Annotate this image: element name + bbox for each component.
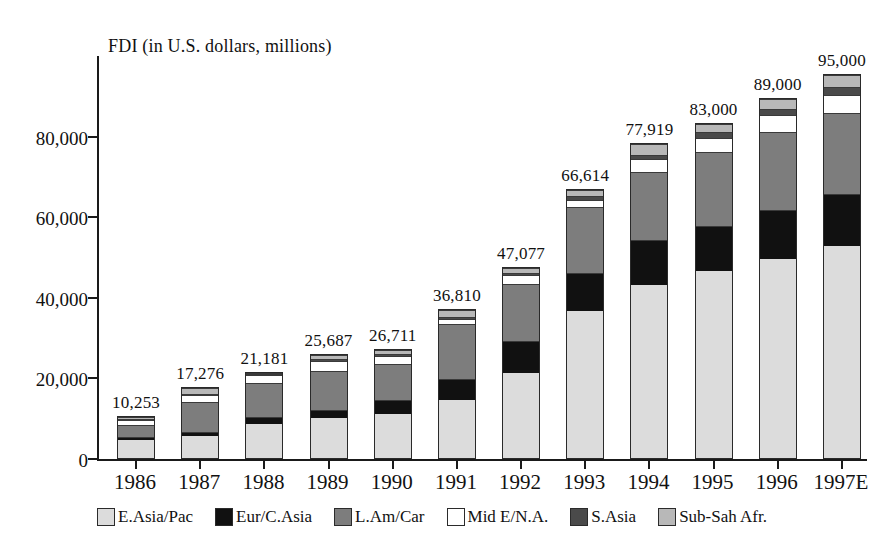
x-axis-tick-label: 1993 <box>563 470 605 495</box>
x-axis-tick <box>199 461 201 469</box>
chart-title: FDI (in U.S. dollars, millions) <box>108 36 332 57</box>
x-axis-tick <box>456 461 458 469</box>
legend-item-label: Mid E/N.A. <box>468 507 549 527</box>
bar-value-label: 25,687 <box>305 331 353 351</box>
bar-segment <box>503 275 539 283</box>
bar-series-container: 10,25317,27621,18125,68726,71136,81047,0… <box>97 56 867 459</box>
bar-stack[interactable]: 17,276 <box>181 387 219 459</box>
bar-segment <box>824 194 860 246</box>
y-axis-tick-label: 80,000 <box>36 128 88 150</box>
bar-segment <box>246 424 282 458</box>
y-axis-tick <box>88 377 97 379</box>
bar-segment <box>824 87 860 95</box>
bar-stack[interactable]: 95,000 <box>823 74 861 459</box>
x-axis-tick-label: 1987 <box>178 470 220 495</box>
bar-segment <box>824 95 860 113</box>
bar-segment <box>696 271 732 458</box>
bar-segment <box>631 159 667 171</box>
x-axis-tick-label: 1988 <box>242 470 284 495</box>
bar-segment <box>760 259 796 458</box>
bar-segment <box>760 109 796 116</box>
bar-stack[interactable]: 21,181 <box>245 372 283 459</box>
bar-segment <box>439 324 475 380</box>
bar-stack[interactable]: 66,614 <box>566 189 604 459</box>
bar-segment <box>760 115 796 131</box>
legend-item[interactable]: Eur/C.Asia <box>215 507 312 527</box>
bar-segment <box>824 75 860 87</box>
bar-stack[interactable]: 10,253 <box>117 416 155 459</box>
x-axis-tick-label: 1991 <box>435 470 477 495</box>
bar-value-label: 26,711 <box>369 326 416 346</box>
chart-legend: E.Asia/PacEur/C.AsiaL.Am/CarMid E/N.A.S.… <box>97 503 881 531</box>
bar-segment <box>631 240 667 284</box>
legend-item[interactable]: Sub-Sah Afr. <box>658 507 767 527</box>
bar-segment <box>631 172 667 241</box>
bar-segment <box>246 383 282 417</box>
bar-stack[interactable]: 25,687 <box>310 354 348 459</box>
legend-swatch-icon <box>97 508 115 526</box>
bar-value-label: 47,077 <box>497 244 545 264</box>
x-axis-tick-label: 1996 <box>756 470 798 495</box>
bar-segment <box>311 410 347 418</box>
legend-swatch-icon <box>334 508 352 526</box>
bar-stack[interactable]: 77,919 <box>630 143 668 459</box>
x-axis-tick <box>777 461 779 469</box>
bar-segment <box>375 400 411 414</box>
legend-item[interactable]: Mid E/N.A. <box>447 507 549 527</box>
stacked-bar-chart: FDI (in U.S. dollars, millions) 020,0004… <box>0 0 881 557</box>
bar-stack[interactable]: 89,000 <box>759 98 797 459</box>
bar-segment <box>567 273 603 311</box>
legend-item[interactable]: S.Asia <box>570 507 636 527</box>
x-axis-tick <box>263 461 265 469</box>
legend-item[interactable]: E.Asia/Pac <box>97 507 193 527</box>
bar-segment <box>696 152 732 227</box>
x-axis-tick-label: 1986 <box>114 470 156 495</box>
legend-item[interactable]: L.Am/Car <box>334 507 424 527</box>
legend-swatch-icon <box>658 508 676 526</box>
x-axis-tick-label: 1995 <box>692 470 734 495</box>
bar-segment <box>246 375 282 383</box>
bar-segment <box>760 210 796 258</box>
legend-item-label: S.Asia <box>591 507 636 527</box>
legend-swatch-icon <box>570 508 588 526</box>
x-axis-tick <box>328 461 330 469</box>
y-axis-tick <box>88 136 97 138</box>
bar-segment <box>118 425 154 437</box>
bar-segment <box>567 311 603 458</box>
bar-stack[interactable]: 47,077 <box>502 267 540 459</box>
bar-segment <box>311 371 347 409</box>
bar-segment <box>439 379 475 399</box>
bar-segment <box>439 310 475 317</box>
x-axis-tick <box>841 461 843 469</box>
plot-area: 10,25317,27621,18125,68726,71136,81047,0… <box>97 56 867 461</box>
bar-value-label: 36,810 <box>433 286 481 306</box>
bar-stack[interactable]: 26,711 <box>374 349 412 459</box>
bar-segment <box>696 226 732 270</box>
x-axis-tick <box>135 461 137 469</box>
bar-segment <box>696 124 732 133</box>
bar-value-label: 83,000 <box>690 100 738 120</box>
legend-swatch-icon <box>447 508 465 526</box>
bar-segment <box>503 284 539 342</box>
bar-segment <box>375 364 411 399</box>
y-axis-tick-label: 60,000 <box>36 208 88 230</box>
bar-segment <box>631 144 667 155</box>
bar-segment <box>567 207 603 272</box>
x-axis-tick-label: 1994 <box>627 470 669 495</box>
bar-value-label: 77,919 <box>625 120 673 140</box>
bar-stack[interactable]: 36,810 <box>438 309 476 459</box>
y-axis-tick-label: 20,000 <box>36 369 88 391</box>
bar-segment <box>439 400 475 458</box>
x-axis-line <box>97 459 867 461</box>
x-axis-tick <box>713 461 715 469</box>
legend-item-label: Sub-Sah Afr. <box>679 507 767 527</box>
y-axis-tick <box>88 458 97 460</box>
legend-item-label: L.Am/Car <box>355 507 424 527</box>
bar-segment <box>824 113 860 194</box>
x-axis-tick <box>392 461 394 469</box>
bar-stack[interactable]: 83,000 <box>695 123 733 459</box>
bar-segment <box>311 418 347 458</box>
bar-segment <box>567 190 603 197</box>
bar-value-label: 66,614 <box>561 166 609 186</box>
bar-segment <box>182 436 218 458</box>
